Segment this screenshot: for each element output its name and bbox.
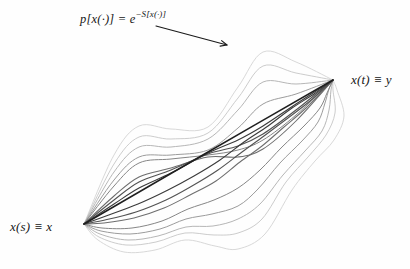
path-sample-curve — [84, 80, 344, 253]
formula-arrow — [156, 26, 227, 45]
path-measure-formula: p[x(·)] = e−S[x(·)] — [80, 10, 166, 27]
path-sample-curve — [84, 65, 333, 224]
figure-canvas: p[x(·)] = e−S[x(·)] x(s) ≡ x x(t) ≡ y — [0, 0, 410, 269]
end-point-label: x(t) ≡ y — [351, 72, 392, 88]
formula-base: p[x(·)] = e — [80, 12, 135, 26]
path-ensemble-figure — [0, 0, 410, 269]
formula-exponent: −S[x(·)] — [135, 9, 166, 19]
path-sample-curve — [84, 51, 333, 224]
start-point-label: x(s) ≡ x — [10, 219, 52, 235]
